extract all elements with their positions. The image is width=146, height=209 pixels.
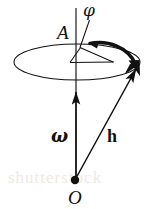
- precession-diagram: shutterstock: [0, 0, 146, 209]
- label-origin-o: O: [68, 188, 82, 207]
- phi-angle-arm: [80, 20, 90, 48]
- cone-radius-line: [80, 48, 113, 63]
- label-angular-velocity-omega: ω: [51, 127, 68, 145]
- label-angle-phi: φ: [83, 2, 95, 19]
- label-angular-momentum-h: h: [107, 127, 117, 145]
- label-axis-point-a: A: [57, 23, 69, 42]
- phi-vertex-leader: [70, 48, 81, 63]
- horizontal-radius-line: [70, 62, 114, 63]
- diagram-canvas: [0, 0, 146, 209]
- origin-point-dot: [71, 176, 79, 184]
- h-vector-arrow: [76, 69, 137, 179]
